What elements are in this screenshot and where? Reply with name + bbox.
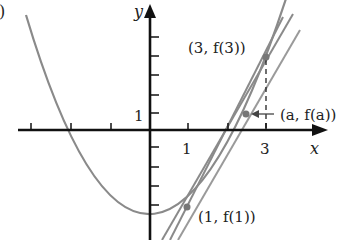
y-tick-label-1: 1 [134,107,144,125]
point-3-f3 [263,54,270,61]
panel-label: ) [0,2,5,21]
label-1-f1: (1, f(1)) [198,208,256,226]
x-tick-label-3: 3 [260,140,270,158]
label-a-fa: (a, f(a)) [280,106,336,124]
y-ticks [150,37,159,205]
mean-value-diagram: ) y x 1 3 1 (3, f(3)) [0,0,348,240]
label-3-f3: (3, f(3)) [188,39,246,57]
x-axis-arrow-icon [312,124,328,136]
point-1-f1 [184,204,191,211]
x-tick-label-1: 1 [182,140,192,158]
y-axis-arrow-icon [144,4,156,18]
y-axis-label: y [133,2,144,21]
point-a-fa [243,111,250,118]
x-axis-label: x [310,139,319,158]
parabola-curve [26,0,292,214]
